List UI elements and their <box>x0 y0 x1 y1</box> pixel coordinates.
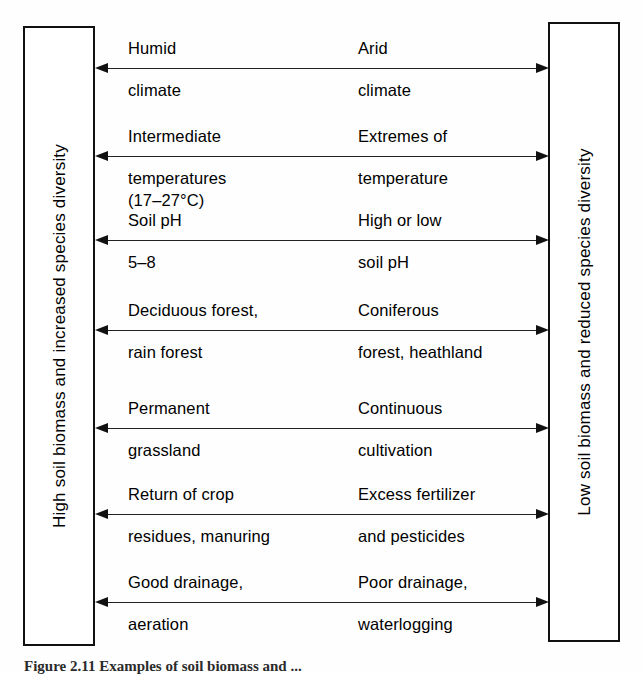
arrow-head-right-icon <box>536 151 549 161</box>
right-pole-box: Low soil biomass and reduced species div… <box>548 22 620 642</box>
row-1-left-above: Humid <box>128 40 176 57</box>
row-7-right-above: Poor drainage, <box>358 574 468 591</box>
arrow-head-right-icon <box>536 597 549 607</box>
arrow-head-left-icon <box>95 151 108 161</box>
row-1-left-below: climate <box>128 82 181 99</box>
arrow-line <box>105 156 539 157</box>
arrow-line <box>105 514 539 515</box>
row-2-right-above: Extremes of <box>358 128 447 145</box>
arrow-head-left-icon <box>95 235 108 245</box>
row-7-left-below: aeration <box>128 616 188 633</box>
arrow-head-left-icon <box>95 423 108 433</box>
row-2-left-extra: (17–27°C) <box>128 192 204 209</box>
row-6-left-above: Return of crop <box>128 486 234 503</box>
arrow-head-left-icon <box>95 63 108 73</box>
arrow-head-right-icon <box>536 423 549 433</box>
row-7-left-above: Good drainage, <box>128 574 243 591</box>
arrow-head-right-icon <box>536 509 549 519</box>
row-5-left-above: Permanent <box>128 400 210 417</box>
row-3-right-above: High or low <box>358 212 442 229</box>
row-2-left-above: Intermediate <box>128 128 221 145</box>
row-6-right-above: Excess fertilizer <box>358 486 475 503</box>
row-6-right-below: and pesticides <box>358 528 465 545</box>
row-7-right-below: waterlogging <box>358 616 453 633</box>
arrow-head-right-icon <box>536 325 549 335</box>
left-pole-box: High soil biomass and increased species … <box>23 26 95 646</box>
row-6-left-below: residues, manuring <box>128 528 270 545</box>
arrow-line <box>105 602 539 603</box>
arrow-line <box>105 428 539 429</box>
row-5-left-below: grassland <box>128 442 200 459</box>
arrow-line <box>105 68 539 69</box>
row-2-right-below: temperature <box>358 170 448 187</box>
row-3-right-below: soil pH <box>358 254 409 271</box>
right-pole-label: Low soil biomass and reduced species div… <box>576 148 593 515</box>
row-4-left-above: Deciduous forest, <box>128 302 258 319</box>
arrow-head-right-icon <box>536 63 549 73</box>
arrow-head-left-icon <box>95 325 108 335</box>
arrow-line <box>105 240 539 241</box>
row-5-right-below: cultivation <box>358 442 432 459</box>
row-4-left-below: rain forest <box>128 344 202 361</box>
row-1-right-above: Arid <box>358 40 388 57</box>
row-4-right-below: forest, heathland <box>358 344 483 361</box>
row-4-right-above: Coniferous <box>358 302 439 319</box>
figure-caption: Figure 2.11 Examples of soil biomass and… <box>24 658 302 675</box>
arrow-head-left-icon <box>95 509 108 519</box>
row-5-right-above: Continuous <box>358 400 442 417</box>
arrow-head-right-icon <box>536 235 549 245</box>
arrow-line <box>105 330 539 331</box>
left-pole-label: High soil biomass and increased species … <box>51 144 68 528</box>
row-3-left-below: 5–8 <box>128 254 156 271</box>
row-2-left-below: temperatures <box>128 170 226 187</box>
row-1-right-below: climate <box>358 82 411 99</box>
arrow-head-left-icon <box>95 597 108 607</box>
row-3-left-above: Soil pH <box>128 212 182 229</box>
